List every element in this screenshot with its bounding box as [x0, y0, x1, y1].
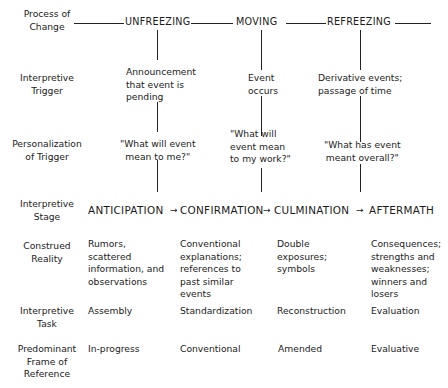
personalization-refreezing: "What has event meant overall?"	[324, 139, 401, 164]
process-moving: MOVING	[236, 16, 277, 27]
trigger-refreezing: Derivative events; passage of time	[318, 72, 402, 97]
frame-anticipation: In-progress	[88, 343, 140, 356]
connector-vertical-line	[157, 30, 158, 60]
trigger-unfreezing: Announcement that event is pending	[126, 66, 196, 104]
construed-reality-anticipation: Rumors, scattered information, and obser…	[88, 238, 164, 288]
trigger-moving: Event occurs	[248, 72, 278, 97]
connector-vertical-line	[360, 30, 361, 70]
process-connector-line	[191, 23, 233, 24]
frame-confirmation: Conventional	[180, 343, 241, 356]
row-label-personalization-of-trigger: Personalization of Trigger	[2, 138, 92, 163]
frame-aftermath: Evaluative	[371, 343, 419, 356]
task-confirmation: Standardization	[180, 305, 252, 318]
construed-reality-culmination: Double exposures; symbols	[277, 238, 327, 276]
connector-vertical-line	[157, 102, 158, 132]
personalization-moving: "What will event mean to my work?"	[230, 128, 291, 166]
personalization-unfreezing: "What will event mean to me?"	[120, 138, 196, 163]
row-label-interpretive-trigger: Interpretive Trigger	[8, 72, 86, 97]
task-aftermath: Evaluation	[371, 305, 419, 318]
connector-vertical-line	[360, 164, 361, 192]
row-label-process-of-change: Process of Change	[12, 8, 82, 33]
process-connector-line	[286, 23, 326, 24]
process-unfreezing: UNFREEZING	[125, 16, 191, 27]
process-refreezing: REFREEZING	[327, 16, 391, 27]
process-connector-line	[395, 23, 431, 24]
connector-vertical-line	[261, 168, 262, 192]
task-culmination: Reconstruction	[277, 305, 346, 318]
construed-reality-aftermath: Consequences; strengths and weaknesses; …	[371, 238, 441, 301]
row-label-interpretive-stage: Interpretive Stage	[8, 198, 86, 223]
arrow-right-icon: →	[170, 205, 178, 215]
row-label-construed-reality: Construed Reality	[8, 240, 86, 265]
row-label-frame-of-reference: Predominant Frame of Reference	[8, 343, 86, 381]
connector-vertical-line	[157, 160, 158, 192]
frame-culmination: Amended	[278, 343, 322, 356]
connector-vertical-line	[360, 96, 361, 142]
stage-culmination: CULMINATION	[274, 204, 349, 216]
row-label-interpretive-task: Interpretive Task	[8, 305, 86, 330]
construed-reality-confirmation: Conventional explanations; references to…	[180, 238, 242, 301]
stage-confirmation: CONFIRMATION	[180, 204, 264, 216]
arrow-right-icon: →	[263, 205, 271, 215]
process-connector-line	[74, 23, 124, 24]
connector-vertical-line	[261, 30, 262, 70]
stage-anticipation: ANTICIPATION	[88, 204, 163, 216]
arrow-right-icon: →	[356, 205, 364, 215]
stage-aftermath: AFTERMATH	[369, 204, 434, 216]
task-anticipation: Assembly	[88, 305, 132, 318]
